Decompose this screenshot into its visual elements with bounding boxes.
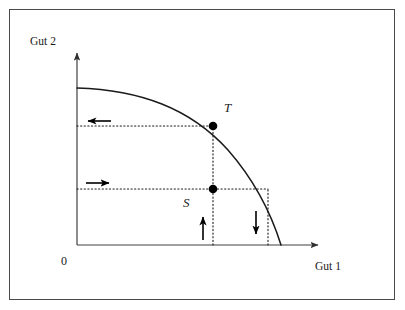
figure-root: Gut 2 Gut 1 0 T S xyxy=(0,0,405,310)
ppf-curve-group xyxy=(77,88,281,245)
annotation-arrows xyxy=(86,121,256,240)
x-axis-label: Gut 1 xyxy=(315,261,341,273)
y-axis-label: Gut 2 xyxy=(30,36,56,48)
point-S-marker xyxy=(209,185,218,194)
point-T-label: T xyxy=(224,101,231,114)
point-S-label: S xyxy=(183,196,190,209)
guide-lines xyxy=(77,126,268,245)
ppf-curve xyxy=(77,88,281,245)
origin-label: 0 xyxy=(61,255,67,267)
axes xyxy=(77,53,318,245)
point-T-marker xyxy=(209,122,218,131)
